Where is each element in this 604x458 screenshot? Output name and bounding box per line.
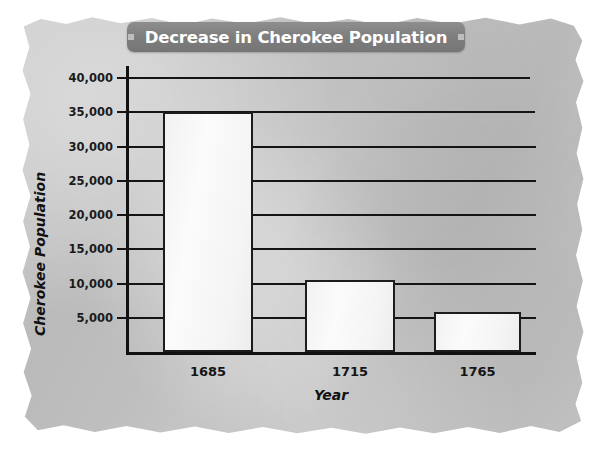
y-axis-tick-label: 20,000	[69, 208, 113, 222]
x-axis-tick-label: 1715	[332, 364, 368, 379]
x-axis-tick-label: 1685	[190, 364, 226, 379]
y-axis-tick-label: 25,000	[69, 174, 113, 188]
y-axis-tick-label: 30,000	[69, 140, 113, 154]
x-axis-title: Year	[314, 387, 348, 403]
y-axis-tick-label: 35,000	[69, 105, 113, 119]
bar-1685	[163, 112, 253, 352]
x-axis-line	[126, 352, 536, 355]
y-axis-tick-mark	[117, 283, 126, 285]
y-axis-tick-mark	[117, 214, 126, 216]
y-axis-tick-mark	[117, 180, 126, 182]
y-axis-tick-mark	[117, 111, 126, 113]
y-axis-title: Cherokee Population	[32, 172, 48, 336]
y-axis-tick-mark	[117, 317, 126, 319]
y-axis-line	[126, 66, 129, 353]
gridline	[126, 77, 530, 79]
x-axis-tick-label: 1765	[459, 364, 495, 379]
y-axis-tick-label: 10,000	[69, 277, 113, 291]
chart-plot-area: 5,00010,00015,00020,00025,00030,00035,00…	[0, 0, 604, 458]
bar-1765	[434, 312, 521, 352]
y-axis-tick-mark	[117, 146, 126, 148]
y-axis-tick-label: 40,000	[69, 71, 113, 85]
y-axis-tick-mark	[117, 248, 126, 250]
y-axis-tick-label: 15,000	[69, 242, 113, 256]
y-axis-tick-label: 5,000	[77, 311, 113, 325]
y-axis-tick-mark	[117, 77, 126, 79]
bar-1715	[305, 280, 395, 352]
